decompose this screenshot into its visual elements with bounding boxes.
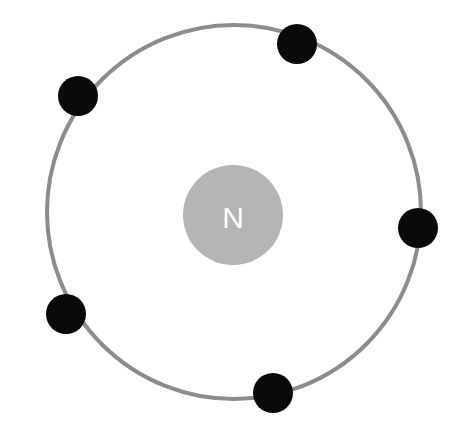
electron	[58, 76, 98, 116]
electron	[277, 24, 317, 64]
nucleus-label: N	[222, 201, 244, 234]
electron	[253, 373, 293, 413]
electron	[398, 208, 438, 248]
electron	[46, 294, 86, 334]
atom-diagram: N	[0, 0, 454, 435]
